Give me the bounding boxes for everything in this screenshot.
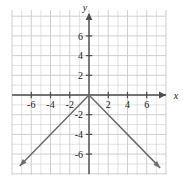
coordinate-plane-figure: -6-4-2246642-2-4-6 y x (0, 0, 183, 188)
y-tick-label: -4 (75, 129, 83, 140)
y-tick-label: -6 (75, 149, 83, 160)
x-tick-label: 6 (144, 99, 149, 110)
y-tick-label: 4 (78, 50, 83, 61)
y-tick-label: 6 (78, 31, 83, 42)
y-axis-label: y (82, 2, 88, 13)
y-tick-label: 2 (78, 70, 83, 81)
x-tick-label: -4 (46, 99, 54, 110)
x-axis-label: x (173, 90, 179, 101)
x-tick-label: 2 (106, 99, 111, 110)
x-axis-arrowhead (159, 92, 166, 99)
y-tick-label: -2 (75, 109, 83, 120)
x-tick-label: -6 (27, 99, 35, 110)
x-tick-label: -2 (66, 99, 74, 110)
graph-svg: -6-4-2246642-2-4-6 y x (0, 0, 183, 188)
x-tick-label: 4 (125, 99, 130, 110)
